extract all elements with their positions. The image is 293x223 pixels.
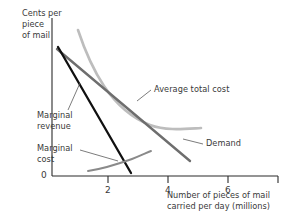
chart-figure: Cents per piece of mail Number of pieces…: [0, 0, 293, 223]
origin-label: 0: [41, 171, 47, 180]
annotation-demand: Demand: [206, 138, 241, 149]
x-tick-label-4: 4: [165, 186, 171, 195]
leader-marginal-cost: [80, 150, 118, 161]
x-tick-label-6: 6: [225, 186, 231, 195]
x-tick-label-2: 2: [105, 186, 111, 195]
leader-demand: [183, 139, 203, 144]
annotation-average-total-cost: Average total cost: [154, 84, 229, 95]
annotation-marginal-revenue: Marginal revenue: [37, 110, 73, 131]
curve-demand: [57, 49, 190, 161]
annotation-marginal-cost: Marginal cost: [37, 143, 73, 164]
x-axis-title: Number of pieces of mail carried per day…: [167, 190, 270, 212]
leader-average-total-cost: [137, 90, 151, 101]
leader-marginal-revenue: [68, 83, 80, 110]
y-axis-title: Cents per piece of mail: [22, 8, 62, 41]
